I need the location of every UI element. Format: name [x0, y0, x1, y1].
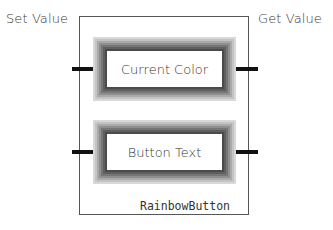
get-value-label: Get Value: [258, 11, 322, 26]
port-label-button-text: Button Text: [107, 134, 222, 170]
port-label-current-color: Current Color: [107, 51, 222, 87]
class-name-label: RainbowButton: [140, 199, 230, 213]
input-connector-button-text: [72, 150, 94, 154]
set-value-label: Set Value: [6, 11, 68, 26]
port-button-text: Button Text: [93, 120, 236, 184]
output-connector-current-color: [236, 67, 258, 71]
output-connector-button-text: [236, 150, 258, 154]
input-connector-current-color: [72, 67, 94, 71]
port-current-color: Current Color: [93, 37, 236, 101]
